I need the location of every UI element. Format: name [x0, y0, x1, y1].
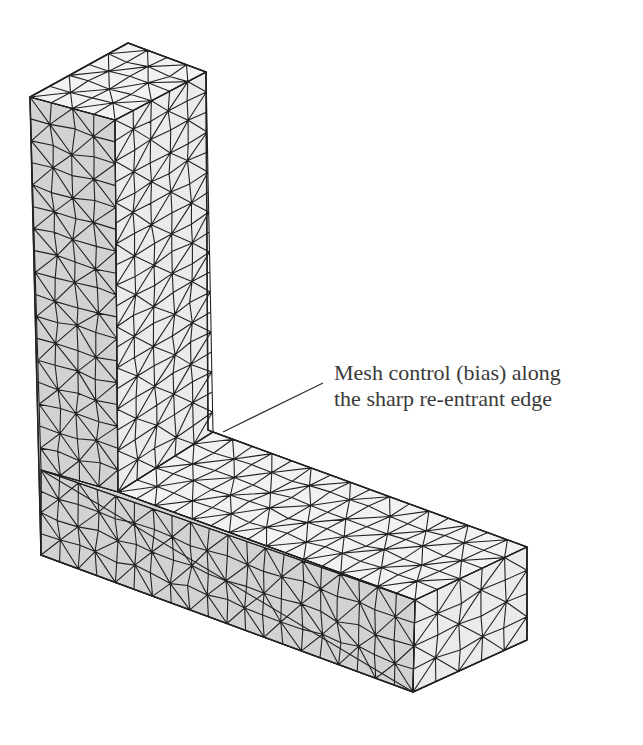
annotation-label: Mesh control (bias) along the sharp re-e…: [334, 360, 561, 412]
annotation-line-1: Mesh control (bias) along: [334, 360, 561, 386]
annotation-leader-line: [223, 383, 323, 432]
annotation-line-2: the sharp re-entrant edge: [334, 386, 561, 412]
